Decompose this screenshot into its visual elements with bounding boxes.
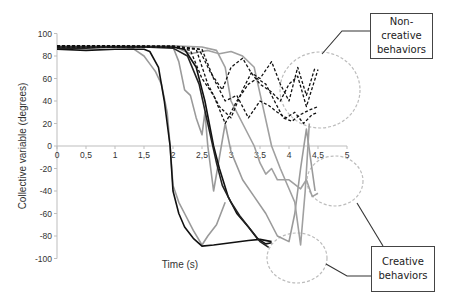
x-tick-label: 1 [113, 150, 118, 160]
series-creative-black-3 [57, 47, 269, 247]
series-creative-gray-3 [57, 46, 318, 197]
non-creative-leader [322, 31, 370, 54]
y-tick-label: -80 [40, 231, 53, 241]
creative-leader-lower [326, 264, 371, 276]
series-creative-gray-4 [173, 46, 309, 245]
y-tick-label: -40 [40, 186, 53, 196]
y-tick-label: 80 [43, 51, 53, 61]
y-tick-label: 60 [43, 74, 53, 84]
x-tick-label: 4 [287, 150, 292, 160]
series-non-creative-dashed-2 [57, 46, 315, 118]
creative-ellipse-upper [307, 156, 363, 206]
x-tick-label: 1,5 [138, 150, 150, 160]
data-series [57, 46, 318, 247]
creative-callout: Creative behaviors [371, 246, 435, 292]
y-tick-label: 40 [43, 96, 53, 106]
y-tick-label: 100 [38, 29, 52, 39]
x-tick-label: 0 [55, 150, 60, 160]
x-tick-label: 2,5 [196, 150, 208, 160]
y-tick-label: 20 [43, 119, 53, 129]
x-axis-label: Time (s) [162, 259, 198, 270]
y-tick-label: -60 [40, 209, 53, 219]
series-creative-gray-1 [57, 46, 225, 245]
creative-ellipse-lower [267, 233, 327, 283]
creative-leader-upper [357, 203, 383, 246]
annotation-ellipses [267, 52, 363, 283]
non-creative-callout: Non- creative behaviors [370, 13, 433, 59]
y-tick-label: 0 [47, 141, 52, 151]
y-tick-label: -20 [40, 164, 53, 174]
y-tick-label: -100 [35, 254, 52, 264]
x-tick-label: 0,5 [80, 150, 92, 160]
y-axis-label: Collective variable (degrees) [17, 83, 28, 210]
